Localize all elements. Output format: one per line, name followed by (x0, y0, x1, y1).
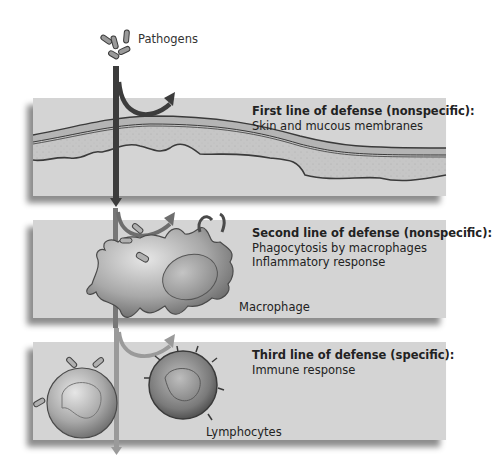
first-line-item: Skin and mucous membranes (252, 119, 475, 134)
second-line-label: Second line of defense (nonspecific): Ph… (252, 226, 492, 270)
first-line-label: First line of defense (nonspecific): Ski… (252, 104, 475, 133)
third-line-label: Third line of defense (specific): Immune… (252, 348, 454, 377)
lymphocyte-cell-left (33, 356, 117, 438)
lymphocyte-cell-right (144, 346, 224, 420)
second-line-item: Inflammatory response (252, 255, 492, 270)
pathogens-icon (100, 30, 131, 60)
macrophage-label: Macrophage (239, 300, 310, 314)
third-line-title: Third line of defense (specific): (252, 348, 454, 363)
lymphocytes-label: Lymphocytes (206, 425, 282, 439)
third-line-item: Immune response (252, 363, 454, 378)
second-line-item: Phagocytosis by macrophages (252, 241, 492, 256)
pathogens-label: Pathogens (138, 32, 198, 46)
second-line-title: Second line of defense (nonspecific): (252, 226, 492, 241)
first-line-title: First line of defense (nonspecific): (252, 104, 475, 119)
